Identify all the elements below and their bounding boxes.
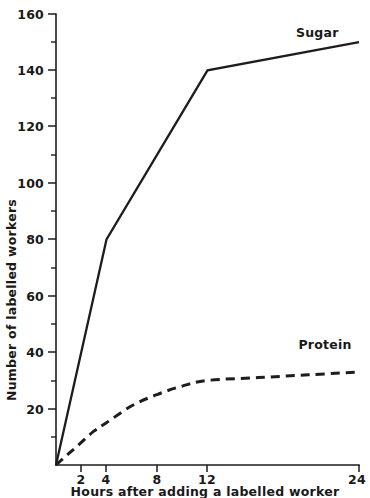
line-chart: 160 140 120 100 80 60 40 20 2 4 8 12 24 …: [0, 0, 370, 498]
x-axis-title: Hours after adding a labelled worker: [71, 484, 340, 498]
y-tick-label-40: 40: [26, 345, 44, 360]
y-tick-label-140: 140: [17, 63, 44, 78]
sugar-series-label: Sugar: [296, 25, 339, 40]
chart-figure: 160 140 120 100 80 60 40 20 2 4 8 12 24 …: [0, 0, 370, 498]
x-tick-label-24: 24: [348, 472, 366, 487]
y-tick-label-100: 100: [17, 176, 44, 191]
y-tick-label-20: 20: [26, 402, 44, 417]
y-tick-label-160: 160: [17, 7, 44, 22]
protein-series-label: Protein: [298, 337, 351, 352]
y-tick-label-120: 120: [17, 119, 44, 134]
y-tick-label-80: 80: [26, 232, 44, 247]
y-tick-label-60: 60: [26, 289, 44, 304]
y-axis-title: Number of labelled workers: [4, 199, 19, 401]
